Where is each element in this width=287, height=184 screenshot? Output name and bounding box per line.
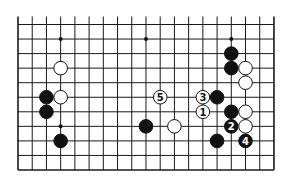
black-stone-disc xyxy=(225,47,239,61)
white-stone xyxy=(168,120,182,134)
move-number-label: 2 xyxy=(228,121,235,132)
black-stone-disc xyxy=(139,120,153,134)
black-stone-disc xyxy=(225,105,239,119)
white-stone-disc xyxy=(239,61,253,75)
white-stone-disc xyxy=(54,61,68,75)
black-stone xyxy=(40,105,54,119)
star-point xyxy=(59,124,63,128)
white-stone-disc xyxy=(54,90,68,104)
white-stone xyxy=(239,105,253,119)
star-point xyxy=(229,37,233,41)
black-stone-disc xyxy=(210,90,224,104)
white-stone xyxy=(54,90,68,104)
numbered-stone-4: 4 xyxy=(239,134,253,148)
black-stone-disc xyxy=(54,134,68,148)
numbered-stone-1: 1 xyxy=(196,105,210,119)
numbered-stone-5: 5 xyxy=(153,90,167,104)
white-stone xyxy=(239,76,253,90)
go-board: 53124 xyxy=(0,0,287,184)
white-stone-disc xyxy=(168,120,182,134)
black-stone xyxy=(54,134,68,148)
black-stone xyxy=(139,120,153,134)
white-stone-disc xyxy=(239,76,253,90)
white-stone-disc xyxy=(239,105,253,119)
black-stone-disc xyxy=(40,105,54,119)
move-number-label: 4 xyxy=(242,136,249,147)
white-stone xyxy=(239,61,253,75)
white-stone xyxy=(239,120,253,134)
black-stone xyxy=(40,90,54,104)
black-stone-disc xyxy=(225,61,239,75)
move-number-label: 3 xyxy=(199,92,206,103)
black-stone xyxy=(210,134,224,148)
black-stone-disc xyxy=(210,134,224,148)
move-number-label: 5 xyxy=(157,92,164,103)
star-point xyxy=(59,37,63,41)
numbered-stone-2: 2 xyxy=(225,120,239,134)
black-stone xyxy=(225,105,239,119)
white-stone-disc xyxy=(239,120,253,134)
white-stone xyxy=(54,61,68,75)
black-stone-disc xyxy=(40,90,54,104)
star-point xyxy=(144,37,148,41)
black-stone xyxy=(210,90,224,104)
black-stone xyxy=(225,61,239,75)
move-number-label: 1 xyxy=(199,107,206,118)
numbered-stone-3: 3 xyxy=(196,90,210,104)
black-stone xyxy=(225,47,239,61)
